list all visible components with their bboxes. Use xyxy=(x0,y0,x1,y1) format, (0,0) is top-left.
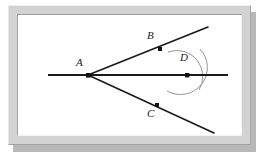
point-dot-c xyxy=(155,103,159,107)
geometry-drawing xyxy=(8,5,251,145)
point-dot-a xyxy=(86,73,91,78)
point-label-a: A xyxy=(76,57,83,68)
point-label-d: D xyxy=(180,52,188,63)
point-dot-d xyxy=(185,73,189,77)
point-dot-b xyxy=(158,47,162,51)
drawing-canvas: A B C D xyxy=(8,5,251,145)
point-label-b: B xyxy=(147,30,154,41)
lower-ray-through-c xyxy=(88,75,214,133)
geometry-figure: A B C D xyxy=(0,0,261,156)
point-label-c: C xyxy=(147,108,154,119)
